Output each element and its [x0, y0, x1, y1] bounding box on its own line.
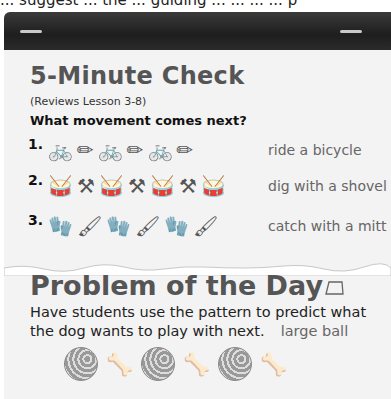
check-item-1: 1. 🚲 ✏ 🚲 ✏ 🚲 ✏ ride a bicycle: [28, 140, 362, 160]
card-binder-bar: [4, 12, 391, 50]
bicycle-icon: 🚲: [48, 140, 73, 160]
item-number: 1.: [28, 136, 48, 152]
paintbrush-icon: 🖌: [193, 216, 218, 236]
pattern-sequence: 🧤 🖌 🧤 🖌 🧤 🖌: [48, 216, 260, 236]
ball-icon: [218, 347, 252, 381]
mitt-icon: 🧤: [106, 216, 131, 236]
item-answer: ride a bicycle: [268, 142, 362, 158]
paintbrush-icon: 🖌: [135, 216, 160, 236]
pencil-icon: ✏: [177, 140, 194, 160]
pattern-sequence: 🚲 ✏ 🚲 ✏ 🚲 ✏: [48, 140, 260, 160]
problem-of-the-day-title: Problem of the Day: [30, 270, 323, 301]
binder-slot-right: [340, 30, 362, 33]
ball-icon: [141, 347, 175, 381]
cropped-header-text: ... suggest ... the ... guiding ... ... …: [0, 0, 391, 9]
mitt-icon: 🧤: [48, 216, 73, 236]
item-answer: catch with a mitt: [268, 218, 386, 234]
question-prompt: What movement comes next?: [30, 113, 247, 128]
check-item-2: 2. 🥁 ⚒ 🥁 ⚒ 🥁 ⚒ 🥁 dig with a shovel: [28, 176, 387, 196]
check-item-3: 3. 🧤 🖌 🧤 🖌 🧤 🖌 catch with a mitt: [28, 216, 386, 236]
drum-icon: 🥁: [48, 176, 73, 196]
bone-icon: 🦴: [260, 352, 287, 377]
bicycle-icon: 🚲: [98, 140, 123, 160]
mitt-icon: 🧤: [164, 216, 189, 236]
ball-icon: [64, 347, 98, 381]
shovel-icon: ⚒: [179, 176, 197, 196]
binder-slot-left: [20, 30, 42, 33]
pencil-icon: ✏: [77, 140, 94, 160]
review-subtitle: (Reviews Lesson 3-8): [30, 95, 146, 108]
shovel-icon: ⚒: [128, 176, 146, 196]
item-answer: dig with a shovel: [268, 178, 387, 194]
pencil-icon: ✏: [127, 140, 144, 160]
bone-icon: 🦴: [106, 352, 133, 377]
drum-icon: 🥁: [150, 176, 175, 196]
item-number: 2.: [28, 172, 48, 188]
teacher-card: 5-Minute Check (Reviews Lesson 3-8) What…: [4, 12, 391, 399]
five-minute-check-title: 5-Minute Check: [30, 62, 244, 90]
bone-icon: 🦴: [183, 352, 210, 377]
drum-icon: 🥁: [201, 176, 226, 196]
shovel-icon: ⚒: [77, 176, 95, 196]
bicycle-icon: 🚲: [148, 140, 173, 160]
problem-text: Have students use the pattern to predict…: [30, 303, 390, 341]
paintbrush-icon: 🖌: [77, 216, 102, 236]
pattern-sequence: 🥁 ⚒ 🥁 ⚒ 🥁 ⚒ 🥁: [48, 176, 260, 196]
drum-icon: 🥁: [99, 176, 124, 196]
item-number: 3.: [28, 212, 48, 228]
dog-toy-pattern: 🦴 🦴 🦴: [64, 347, 287, 381]
tent-card-icon: [323, 280, 345, 296]
problem-answer: large ball: [281, 323, 349, 339]
